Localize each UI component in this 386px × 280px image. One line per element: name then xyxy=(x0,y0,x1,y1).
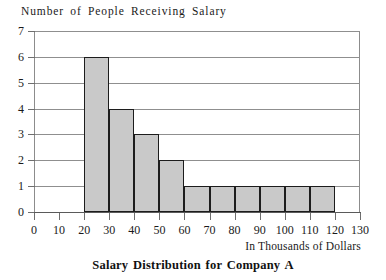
y-tick-label-1: 1 xyxy=(2,180,24,192)
x-axis-caption: In Thousands of Dollars xyxy=(245,240,361,252)
histogram-bar xyxy=(310,186,335,212)
histogram-bar xyxy=(260,186,285,212)
x-tick-mark-70 xyxy=(210,213,211,220)
x-tick-mark-10 xyxy=(59,213,60,220)
y-tick-label-5: 5 xyxy=(2,77,24,89)
bars-layer xyxy=(34,31,360,212)
y-tick-label-2: 2 xyxy=(2,154,24,166)
histogram-bar xyxy=(109,109,134,212)
histogram-bar xyxy=(285,186,310,212)
y-tick-label-4: 4 xyxy=(2,103,24,115)
histogram-bar xyxy=(235,186,260,212)
y-tick-label-6: 6 xyxy=(2,51,24,63)
y-tick-label-7: 7 xyxy=(2,25,24,37)
x-tick-mark-50 xyxy=(159,213,160,220)
histogram-bar xyxy=(84,57,109,212)
x-tick-mark-80 xyxy=(235,213,236,220)
histogram-bar xyxy=(134,134,159,212)
x-tick-mark-20 xyxy=(84,213,85,220)
histogram-bar xyxy=(210,186,235,212)
x-tick-mark-120 xyxy=(335,213,336,220)
histogram-bar xyxy=(184,186,209,212)
x-tick-mark-100 xyxy=(285,213,286,220)
y-tick-label-0: 0 xyxy=(2,206,24,218)
histogram-bar xyxy=(159,160,184,212)
x-tick-mark-60 xyxy=(184,213,185,220)
x-tick-label-130: 130 xyxy=(343,224,377,237)
x-tick-mark-130 xyxy=(360,213,361,220)
salary-distribution-histogram: Number of People Receiving Salary 012345… xyxy=(0,0,386,280)
x-tick-mark-0 xyxy=(34,213,35,220)
y-tick-label-3: 3 xyxy=(2,128,24,140)
chart-title: Salary Distribution for Company A xyxy=(0,258,386,273)
y-axis-title: Number of People Receiving Salary xyxy=(21,5,227,17)
x-tick-mark-30 xyxy=(109,213,110,220)
x-tick-mark-110 xyxy=(310,213,311,220)
x-axis-line xyxy=(34,212,361,213)
x-tick-mark-40 xyxy=(134,213,135,220)
x-tick-mark-90 xyxy=(260,213,261,220)
